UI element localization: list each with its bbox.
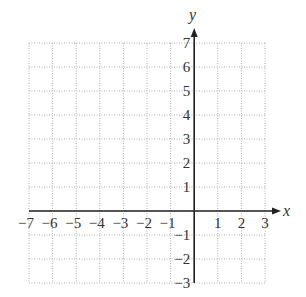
y-axis-label: y — [187, 6, 197, 24]
x-tick-label: −2 — [136, 215, 152, 231]
y-tick-label: −2 — [174, 251, 190, 267]
y-tick-label: 3 — [183, 131, 191, 147]
x-tick-label: −6 — [42, 215, 58, 231]
y-tick-label: 2 — [183, 155, 191, 171]
grid-lines — [29, 43, 265, 283]
y-tick-label: −3 — [174, 275, 190, 291]
x-tick-label: −7 — [18, 215, 34, 231]
y-tick-label: 5 — [183, 83, 191, 99]
x-axis-label: x — [282, 202, 290, 219]
y-tick-label: −1 — [174, 227, 190, 243]
x-tick-label: −1 — [160, 215, 176, 231]
x-tick-label: −3 — [112, 215, 128, 231]
y-tick-label: 7 — [183, 35, 191, 51]
x-tick-label: −4 — [89, 215, 105, 231]
axes — [29, 28, 281, 283]
y-tick-label: 1 — [183, 179, 191, 195]
tick-labels: −7−6−5−4−3−2−1123−3−2−11234567 — [18, 35, 269, 291]
y-axis-arrow-icon — [191, 28, 198, 37]
x-tick-label: −5 — [65, 215, 81, 231]
x-tick-label: 3 — [261, 215, 269, 231]
x-tick-label: 2 — [238, 215, 246, 231]
coordinate-plane: −7−6−5−4−3−2−1123−3−2−11234567 x y — [0, 0, 306, 297]
x-tick-label: 1 — [214, 215, 222, 231]
y-tick-label: 6 — [183, 59, 191, 75]
y-tick-label: 4 — [183, 107, 191, 123]
x-axis-arrow-icon — [272, 208, 281, 215]
